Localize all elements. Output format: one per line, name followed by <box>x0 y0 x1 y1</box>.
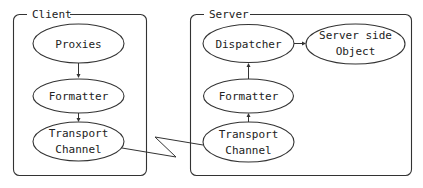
svg-text:Proxies: Proxies <box>55 38 101 51</box>
node-server-formatter: Formatter <box>204 79 294 113</box>
arrowhead-icon <box>247 113 251 117</box>
svg-text:Formatter: Formatter <box>49 90 109 103</box>
client-group-label: Client <box>32 8 72 21</box>
node-server-dispatcher: Dispatcher <box>203 25 294 63</box>
svg-text:Channel: Channel <box>55 143 101 156</box>
svg-text:Transport: Transport <box>219 128 279 141</box>
svg-text:Object: Object <box>336 45 376 58</box>
arrowhead-icon <box>77 118 81 122</box>
arrowhead-icon <box>77 74 81 78</box>
node-server-transport-channel: Transport Channel <box>203 122 294 162</box>
svg-text:Transport: Transport <box>49 127 109 140</box>
node-client-transport-channel: Transport Channel <box>33 122 124 161</box>
remoting-architecture-diagram: Client Server Proxies Formatter Transpor… <box>0 0 423 188</box>
svg-text:Channel: Channel <box>225 144 271 157</box>
node-client-proxies: Proxies <box>33 24 124 63</box>
node-server-side-object: Server side Object <box>306 24 405 64</box>
node-client-formatter: Formatter <box>33 79 124 113</box>
arrowhead-icon <box>302 42 306 46</box>
svg-text:Dispatcher: Dispatcher <box>215 38 282 51</box>
svg-text:Formatter: Formatter <box>219 90 279 103</box>
server-group-label: Server <box>209 8 249 21</box>
arrowhead-icon <box>247 63 251 67</box>
svg-text:Server side: Server side <box>319 29 392 42</box>
